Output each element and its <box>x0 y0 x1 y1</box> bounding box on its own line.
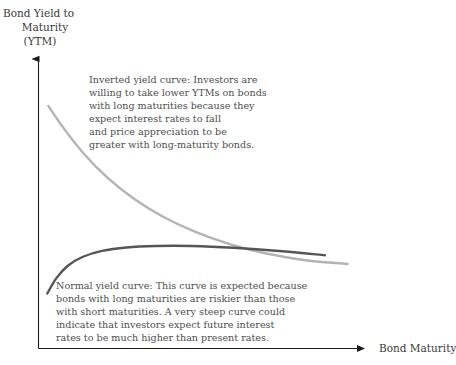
y-axis-title-line-1: Bond Yield to <box>3 6 107 20</box>
annotation-line: greater with long-maturity bonds. <box>89 138 267 151</box>
annotation-line: and price appreciation to be <box>89 125 267 138</box>
y-axis-title-line-3: (YTM) <box>3 34 107 48</box>
annotation-line: with short maturities. A very steep curv… <box>56 305 307 318</box>
annotation-line: Normal yield curve: This curve is expect… <box>56 279 307 292</box>
annotation-line: bonds with long maturities are riskier t… <box>56 292 307 305</box>
annotation-line: expect interest rates to fall <box>89 112 267 125</box>
annotation-line: Inverted yield curve: Investors are <box>89 73 267 86</box>
annotation-line: with long maturities because they <box>89 99 267 112</box>
x-axis-title: Bond Maturity <box>379 341 456 355</box>
annotation-line: willing to take lower YTMs on bonds <box>89 86 267 99</box>
normal-yield-curve-annotation: Normal yield curve: This curve is expect… <box>56 279 307 344</box>
annotation-line: rates to be much higher than present rat… <box>56 331 307 344</box>
inverted-yield-curve-annotation: Inverted yield curve: Investors are will… <box>89 73 267 152</box>
y-axis-title-line-2: Maturity <box>3 20 107 34</box>
y-axis-title: Bond Yield to Maturity (YTM) <box>3 6 107 48</box>
annotation-line: indicate that investors expect future in… <box>56 318 307 331</box>
